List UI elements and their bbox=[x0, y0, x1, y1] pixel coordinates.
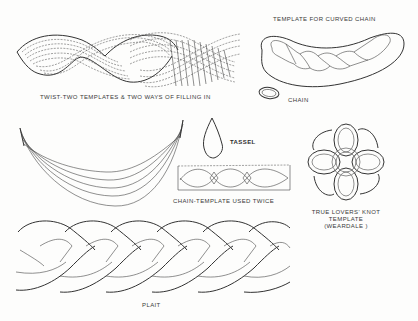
plait-caption: PLAIT bbox=[142, 302, 161, 309]
chain-caption: CHAIN bbox=[288, 97, 309, 104]
tassel-caption: TASSEL bbox=[230, 139, 256, 146]
chain-template-figure bbox=[178, 165, 290, 190]
diagram-canvas: .ink { fill: none; stroke: #333; stroke-… bbox=[0, 0, 418, 321]
tassel-figure bbox=[203, 118, 222, 158]
crescent-figure bbox=[20, 120, 183, 206]
curved-chain-caption: TEMPLATE FOR CURVED CHAIN bbox=[273, 16, 376, 23]
twist-caption: TWIST-TWO TEMPLATES & TWO WAYS OF FILLIN… bbox=[40, 94, 211, 101]
chain-figure bbox=[258, 86, 279, 100]
curved-chain-figure bbox=[261, 33, 404, 86]
plait-figure bbox=[16, 221, 290, 292]
lovers-knot-figure bbox=[308, 124, 384, 200]
lovers-knot-caption-line1: TRUE LOVERS' KNOT bbox=[306, 209, 386, 216]
chain-template-caption: CHAIN-TEMPLATE USED TWICE bbox=[173, 198, 274, 205]
twist-figure bbox=[17, 33, 240, 87]
lovers-knot-caption-line3: (WEARDALE ) bbox=[306, 223, 386, 230]
lovers-knot-caption-line2: TEMPLATE bbox=[306, 216, 386, 223]
